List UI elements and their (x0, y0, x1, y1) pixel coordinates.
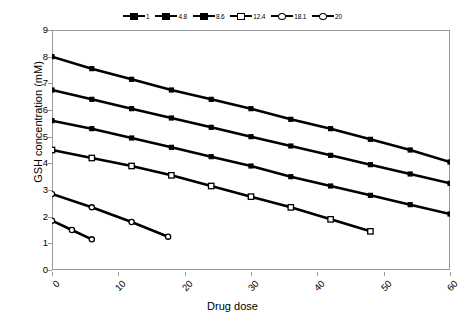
chart-container: 14.88.612.418.120 0123456789 01020304050… (0, 0, 465, 327)
data-point-marker (209, 154, 214, 159)
y-axis-tick-marks (0, 30, 52, 270)
legend-swatch-12.4 (230, 12, 252, 21)
legend-entry-20: 20 (312, 12, 342, 21)
x-tick-mark (317, 272, 318, 276)
legend-swatch-20 (312, 12, 334, 21)
legend-entry-12.4: 12.4 (230, 12, 265, 21)
data-point-marker (129, 106, 134, 111)
x-tick-mark (118, 272, 119, 276)
legend-entry-1: 1 (123, 12, 149, 21)
data-point-marker (52, 218, 55, 223)
data-point-marker (408, 147, 413, 152)
x-tick-label-60: 60 (439, 278, 460, 299)
data-point-marker (89, 97, 94, 102)
data-point-marker (52, 118, 55, 123)
data-point-marker (288, 117, 293, 122)
data-point-marker (52, 87, 55, 92)
data-point-marker (89, 126, 94, 131)
chart-series-layer (52, 30, 450, 270)
y-tick-mark (48, 190, 52, 191)
data-point-marker (209, 183, 214, 188)
x-tick-mark (185, 272, 186, 276)
y-tick-mark (48, 57, 52, 58)
series-line-12.4 (52, 150, 370, 231)
data-point-marker (408, 202, 413, 207)
data-point-marker (328, 126, 333, 131)
data-point-marker (368, 162, 373, 167)
data-point-marker (288, 205, 293, 210)
y-tick-mark (48, 83, 52, 84)
data-point-marker (129, 135, 134, 140)
data-point-marker (248, 134, 253, 139)
legend-entry-8.6: 8.6 (193, 12, 224, 21)
chart-legend: 14.88.612.418.120 (0, 6, 465, 26)
data-point-marker (52, 54, 55, 59)
data-point-marker (169, 173, 174, 178)
data-point-marker (328, 183, 333, 188)
data-point-marker (368, 137, 373, 142)
x-tick-mark (450, 272, 451, 276)
legend-label: 1 (146, 12, 149, 21)
data-point-marker (165, 234, 170, 239)
data-point-marker (89, 155, 94, 160)
filled-square-marker-icon (162, 13, 170, 20)
x-tick-label-30: 30 (240, 278, 261, 299)
legend-label: 12.4 (253, 12, 265, 21)
legend-entry-4.8: 4.8 (155, 12, 186, 21)
y-tick-mark (48, 110, 52, 111)
data-point-marker (89, 66, 94, 71)
data-point-marker (129, 219, 134, 224)
legend-label: 18.1 (294, 12, 306, 21)
y-tick-mark (48, 270, 52, 271)
y-axis-title: GSH concentration (mM) (32, 22, 44, 222)
y-tick-mark (48, 243, 52, 244)
x-tick-mark (251, 272, 252, 276)
data-point-marker (89, 205, 94, 210)
data-point-marker (52, 147, 55, 152)
y-tick-mark (48, 217, 52, 218)
data-point-marker (169, 145, 174, 150)
data-point-marker (209, 125, 214, 130)
x-tick-label-10: 10 (108, 278, 129, 299)
data-point-marker (248, 106, 253, 111)
open-circle-marker-icon (278, 13, 286, 20)
data-point-marker (328, 217, 333, 222)
legend-label: 8.6 (216, 12, 224, 21)
data-point-marker (447, 159, 450, 164)
legend-label: 20 (335, 12, 342, 21)
open-circle-marker-icon (319, 13, 327, 20)
data-point-marker (89, 237, 94, 242)
data-point-marker (288, 174, 293, 179)
x-tick-mark (52, 272, 53, 276)
data-point-marker (368, 193, 373, 198)
data-point-marker (209, 97, 214, 102)
data-point-marker (408, 171, 413, 176)
x-tick-label-50: 50 (373, 278, 394, 299)
legend-entry-18.1: 18.1 (271, 12, 306, 21)
y-tick-mark (48, 163, 52, 164)
data-point-marker (129, 77, 134, 82)
legend-swatch-8.6 (193, 12, 215, 21)
data-point-marker (248, 194, 253, 199)
filled-square-marker-icon (200, 13, 208, 20)
data-point-marker (52, 191, 55, 196)
data-point-marker (129, 163, 134, 168)
legend-swatch-18.1 (271, 12, 293, 21)
data-point-marker (328, 153, 333, 158)
x-axis-title: Drug dose (0, 300, 465, 312)
legend-label: 4.8 (178, 12, 186, 21)
legend-swatch-1 (123, 12, 145, 21)
data-point-marker (169, 87, 174, 92)
data-point-marker (447, 211, 450, 216)
open-square-marker-icon (237, 13, 245, 20)
data-point-marker (69, 227, 74, 232)
filled-square-marker-icon (130, 13, 138, 20)
data-point-marker (248, 163, 253, 168)
x-tick-label-20: 20 (174, 278, 195, 299)
x-tick-label-0: 0 (41, 278, 62, 299)
data-point-marker (288, 143, 293, 148)
legend-swatch-4.8 (155, 12, 177, 21)
y-tick-mark (48, 30, 52, 31)
x-tick-label-40: 40 (307, 278, 328, 299)
y-tick-mark (48, 137, 52, 138)
